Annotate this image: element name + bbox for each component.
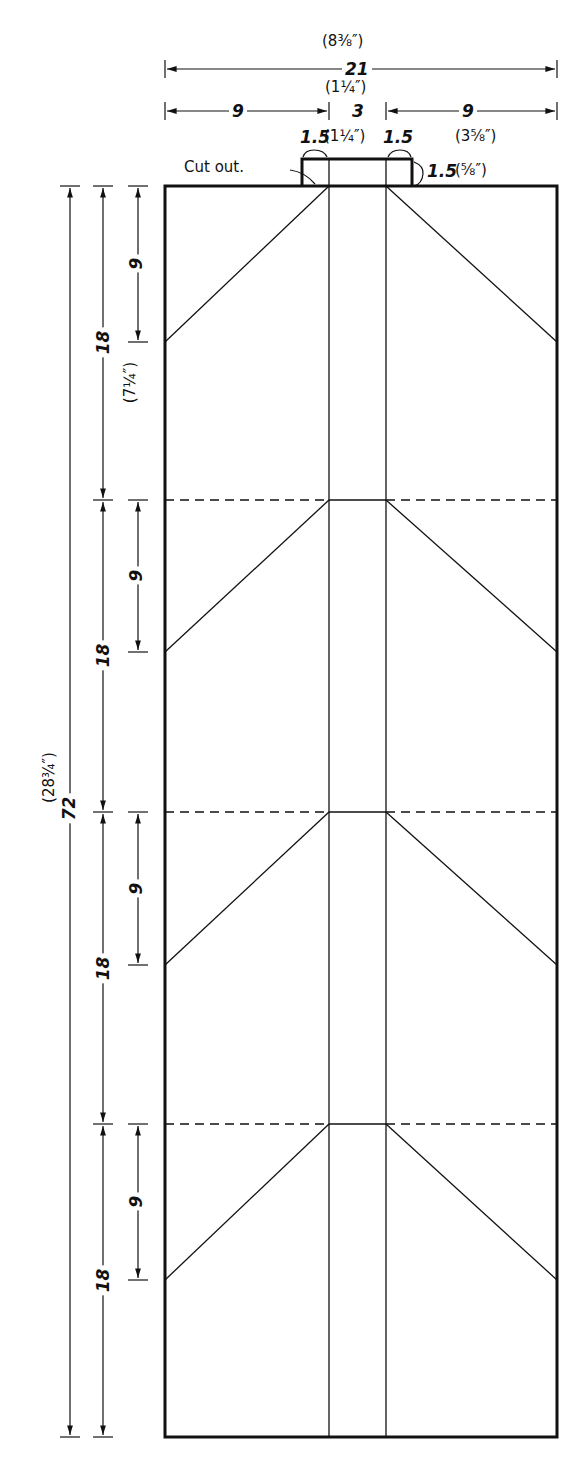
- fold-lines: [165, 186, 557, 1280]
- total-height-inches: (28¾″): [42, 752, 57, 803]
- pattern-drawing: [0, 0, 586, 1458]
- section-4-label: 18: [95, 1266, 112, 1296]
- right-panel-inches: (3⅝″): [455, 129, 496, 144]
- total-width-inches: (8⅜″): [322, 34, 363, 49]
- total-width-label: 21: [342, 61, 372, 78]
- tab-height-label: 1.5: [427, 163, 457, 180]
- cutout-label: Cut out.: [184, 160, 244, 175]
- right-panel-label: 9: [459, 103, 477, 120]
- tab-right-label: 1.5: [383, 129, 413, 146]
- section-3-label: 18: [95, 954, 112, 984]
- pattern-outline: [165, 159, 557, 1437]
- tab-center-inches: (1¼″): [324, 129, 365, 144]
- sub-section-2-label: 9: [128, 567, 145, 585]
- section-2-label: 18: [95, 641, 112, 671]
- tab-height-inches: (⅝″): [455, 163, 487, 178]
- sub-section-3-label: 9: [128, 880, 145, 898]
- sub-section-1-label: 9: [128, 255, 145, 273]
- section-1-label: 18: [95, 328, 112, 358]
- center-width-inches: (1¼″): [325, 80, 366, 95]
- section-inches: (7¼″): [123, 362, 138, 403]
- center-width-label: 3: [349, 103, 367, 120]
- total-height-label: 72: [61, 794, 78, 824]
- left-panel-label: 9: [229, 103, 247, 120]
- sub-section-4-label: 9: [128, 1193, 145, 1211]
